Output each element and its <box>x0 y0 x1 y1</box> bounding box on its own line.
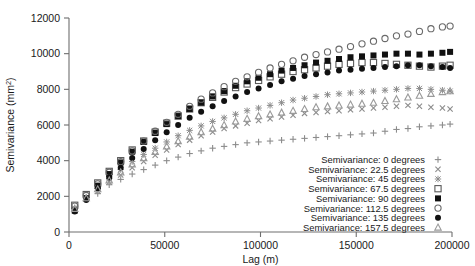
marker-open-triangle <box>416 92 422 98</box>
y-tick-label: 12000 <box>31 12 60 24</box>
marker-open-square <box>313 65 319 71</box>
marker-open-circle <box>278 61 284 67</box>
variogram-chart: 0500001000001500002000000200040006000800… <box>0 0 475 266</box>
marker-open-square <box>324 63 330 69</box>
marker-filled-circle <box>233 93 239 99</box>
marker-open-circle <box>428 26 434 32</box>
marker-filled-circle <box>244 89 250 95</box>
marker-filled-square <box>370 52 376 58</box>
marker-open-triangle <box>435 224 441 230</box>
marker-open-circle <box>370 38 376 44</box>
marker-open-circle <box>347 43 353 49</box>
marker-open-square <box>347 60 353 66</box>
marker-filled-square <box>302 62 308 68</box>
y-axis-title: Semivariance (mm2) <box>4 77 16 172</box>
marker-open-triangle <box>255 113 261 119</box>
marker-filled-circle <box>267 82 273 88</box>
marker-filled-square <box>325 58 331 64</box>
y-tick-label: 10000 <box>31 47 60 59</box>
marker-filled-circle <box>435 215 441 221</box>
marker-filled-square <box>336 56 342 62</box>
marker-filled-circle <box>313 71 319 77</box>
marker-open-circle <box>336 46 342 52</box>
marker-open-triangle <box>393 96 399 102</box>
marker-filled-square <box>382 52 388 58</box>
marker-open-triangle <box>232 118 238 124</box>
y-tick-label: 8000 <box>37 83 61 95</box>
marker-open-circle <box>290 58 296 64</box>
y-tick-label: 2000 <box>37 190 61 202</box>
marker-filled-circle <box>175 122 181 128</box>
y-tick-label: 6000 <box>37 119 61 131</box>
marker-filled-square <box>313 60 319 66</box>
marker-open-triangle <box>244 115 250 121</box>
marker-filled-circle <box>187 115 193 121</box>
marker-open-triangle <box>267 111 273 117</box>
x-axis-title: Lag (m) <box>242 253 278 265</box>
marker-filled-circle <box>336 68 342 74</box>
marker-filled-circle <box>152 137 158 143</box>
marker-open-circle <box>255 69 261 75</box>
marker-open-triangle <box>209 125 215 131</box>
marker-open-circle <box>313 51 319 57</box>
marker-filled-square <box>393 51 399 57</box>
chart-canvas: 0500001000001500002000000200040006000800… <box>0 0 475 266</box>
marker-open-circle <box>359 41 365 47</box>
marker-open-square <box>336 61 342 67</box>
marker-filled-circle <box>256 85 262 91</box>
marker-open-circle <box>405 31 411 37</box>
marker-filled-square <box>279 68 285 74</box>
marker-open-triangle <box>336 102 342 108</box>
x-tick-label: 100000 <box>243 239 278 251</box>
marker-filled-circle <box>439 64 445 70</box>
marker-filled-circle <box>164 129 170 135</box>
x-tick-label: 0 <box>66 239 72 251</box>
marker-open-circle <box>439 24 445 30</box>
marker-open-circle <box>267 65 273 71</box>
marker-filled-square <box>435 195 441 201</box>
marker-filled-square <box>439 50 445 56</box>
marker-filled-square <box>428 51 434 57</box>
marker-open-triangle <box>198 129 204 135</box>
marker-filled-circle <box>370 65 376 71</box>
marker-filled-circle <box>359 66 365 72</box>
marker-filled-circle <box>405 62 411 68</box>
legend: Semivariance: 0 degreesSemivariance: 22.… <box>303 154 441 233</box>
marker-filled-square <box>416 52 422 58</box>
marker-open-triangle <box>221 122 227 128</box>
marker-filled-square <box>359 53 365 59</box>
marker-filled-circle <box>447 65 453 71</box>
marker-open-triangle <box>186 133 192 139</box>
marker-filled-circle <box>416 62 422 68</box>
marker-open-triangle <box>290 107 296 113</box>
marker-filled-square <box>447 49 453 55</box>
marker-filled-circle <box>198 109 204 115</box>
marker-open-triangle <box>324 103 330 109</box>
marker-open-triangle <box>370 99 376 105</box>
marker-filled-square <box>290 65 296 71</box>
marker-open-circle <box>324 49 330 55</box>
marker-filled-square <box>405 51 411 57</box>
x-tick-label: 200000 <box>434 239 469 251</box>
marker-filled-square <box>348 54 354 60</box>
marker-open-circle <box>301 54 307 60</box>
marker-open-triangle <box>382 98 388 104</box>
marker-filled-circle <box>348 67 354 73</box>
marker-open-triangle <box>278 109 284 115</box>
marker-filled-circle <box>221 98 227 104</box>
marker-open-triangle <box>359 100 365 106</box>
marker-open-circle <box>435 205 441 211</box>
marker-filled-circle <box>279 78 285 84</box>
marker-filled-circle <box>210 103 216 109</box>
marker-filled-circle <box>393 63 399 69</box>
marker-open-square <box>435 186 441 192</box>
marker-filled-circle <box>302 73 308 79</box>
marker-open-circle <box>393 33 399 39</box>
marker-filled-circle <box>428 63 434 69</box>
legend-label-7: Semivariance: 157.5 degrees <box>303 222 425 233</box>
marker-open-circle <box>416 28 422 34</box>
x-tick-label: 150000 <box>339 239 374 251</box>
marker-open-circle <box>447 23 453 29</box>
y-tick-label: 0 <box>54 226 60 238</box>
marker-filled-circle <box>141 146 147 152</box>
